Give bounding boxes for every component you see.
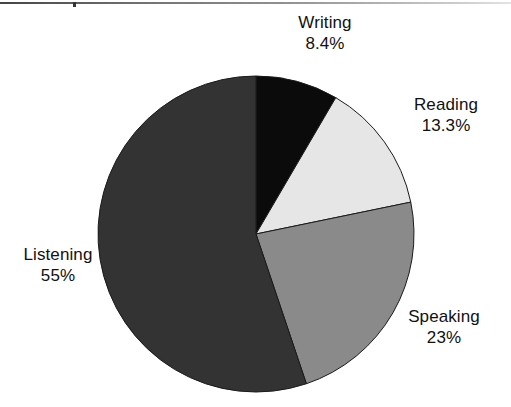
pie-label-writing-value: 8.4% <box>250 33 400 54</box>
pie-label-speaking: Speaking 23% <box>378 306 510 348</box>
pie-label-speaking-value: 23% <box>378 327 510 348</box>
pie-label-listening-name: Listening <box>2 244 114 265</box>
pie-label-reading-name: Reading <box>382 94 510 115</box>
pie-label-reading: Reading 13.3% <box>382 94 510 136</box>
pie-slice-group <box>98 76 414 392</box>
pie-label-listening: Listening 55% <box>2 244 114 286</box>
pie-label-listening-value: 55% <box>2 265 114 286</box>
pie-label-reading-value: 13.3% <box>382 115 510 136</box>
pie-label-writing: Writing 8.4% <box>250 12 400 54</box>
pie-label-writing-name: Writing <box>250 12 400 33</box>
pie-chart: Writing 8.4% Reading 13.3% Speaking 23% … <box>0 0 511 407</box>
pie-label-speaking-name: Speaking <box>378 306 510 327</box>
chart-page: Writing 8.4% Reading 13.3% Speaking 23% … <box>0 0 511 407</box>
